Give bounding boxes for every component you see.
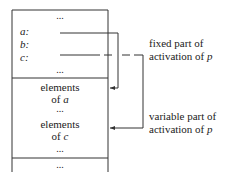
- lower-ellipsis-2: ...: [12, 143, 108, 155]
- trailing-ellipsis: ...: [12, 159, 108, 171]
- activation-label: activation of: [149, 123, 207, 135]
- field-a-label: a:: [20, 25, 29, 37]
- field-b-label: b:: [20, 38, 29, 50]
- upper-top-ellipsis: ...: [12, 10, 108, 22]
- var-c: c: [64, 130, 69, 142]
- of-label: of: [52, 130, 64, 142]
- var-p: p: [207, 123, 213, 135]
- elements-c-line1: elements: [12, 118, 108, 130]
- pointer-a-line: [60, 33, 118, 88]
- variable-annotation-line2: activation of p: [149, 123, 213, 135]
- fixed-annotation-line1: fixed part of: [149, 37, 203, 49]
- elements-c-line2: of c: [12, 130, 108, 142]
- lower-ellipsis-1: ...: [12, 103, 108, 115]
- elements-a-line1: elements: [12, 81, 108, 93]
- field-c-label: c:: [20, 51, 29, 63]
- var-p: p: [207, 50, 213, 62]
- variable-annotation-line1: variable part of: [149, 110, 216, 122]
- pointer-c-line: [110, 55, 143, 128]
- activation-label: activation of: [149, 50, 207, 62]
- upper-bottom-ellipsis: ...: [12, 64, 108, 76]
- fixed-annotation-line2: activation of p: [149, 50, 213, 62]
